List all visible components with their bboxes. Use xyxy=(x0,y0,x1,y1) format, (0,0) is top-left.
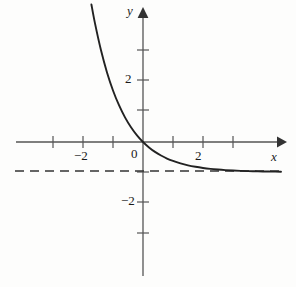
x-tick-label-neg2: −2 xyxy=(74,149,88,162)
y-tick-label-neg2: −2 xyxy=(121,194,135,207)
y-axis-label: y xyxy=(127,4,133,17)
y-tick-label-2: 2 xyxy=(125,72,132,85)
x-axis-label: x xyxy=(271,150,277,163)
graph-figure: y x 0 −2 2 2 −2 xyxy=(0,0,296,287)
exponential-curve xyxy=(91,4,281,171)
x-axis xyxy=(16,137,287,148)
plot-canvas xyxy=(0,0,296,287)
origin-label: 0 xyxy=(131,147,138,160)
x-tick-label-2: 2 xyxy=(195,149,202,162)
y-axis-arrow-icon xyxy=(138,7,149,18)
x-axis-arrow-icon xyxy=(277,137,287,148)
